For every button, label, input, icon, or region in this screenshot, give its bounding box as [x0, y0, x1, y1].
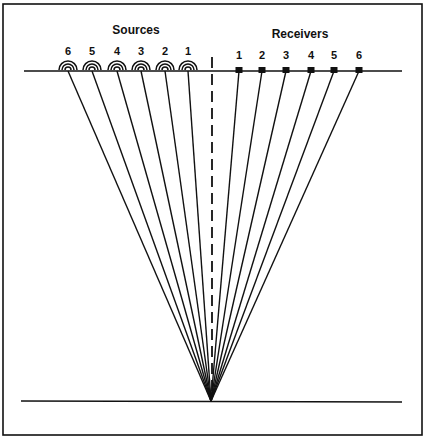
sources-title: Sources	[112, 24, 159, 36]
source-wave-icon	[114, 67, 120, 70]
receiver-geophone-icon	[356, 67, 363, 73]
receiver-label: 5	[331, 50, 337, 61]
receiver-geophone-icon	[308, 67, 315, 73]
receiver-geophone-icon	[283, 67, 290, 73]
receiver-ray	[211, 71, 311, 401]
receiver-ray	[211, 71, 359, 401]
receiver-ray	[211, 71, 334, 401]
diagram-canvas	[0, 0, 425, 438]
source-label: 3	[138, 46, 144, 57]
source-wave-icon	[65, 67, 71, 70]
source-ray	[68, 71, 211, 401]
receiver-geophone-icon	[331, 67, 338, 73]
source-ray	[165, 71, 211, 401]
source-label: 1	[185, 46, 191, 57]
receiver-label: 3	[283, 50, 289, 61]
receiver-geophone-icon	[259, 67, 266, 73]
source-wave-icon	[138, 67, 144, 70]
source-label: 6	[65, 46, 71, 57]
receiver-ray	[211, 71, 262, 401]
source-wave-icon	[185, 67, 191, 70]
receiver-label: 6	[356, 50, 362, 61]
receiver-label: 2	[259, 50, 265, 61]
source-label: 2	[162, 46, 168, 57]
source-wave-icon	[162, 67, 168, 70]
source-ray	[117, 71, 211, 401]
source-label: 4	[114, 46, 120, 57]
receivers-title: Receivers	[272, 28, 329, 40]
receiver-label: 1	[236, 50, 242, 61]
source-ray	[188, 71, 211, 401]
source-wave-icon	[89, 67, 95, 70]
receiver-ray	[211, 71, 286, 401]
common-midpoint-diagram: Sources Receivers 6 5 4 3 2 1 1 2 3 4 5 …	[0, 0, 425, 438]
source-label: 5	[89, 46, 95, 57]
receiver-ray	[211, 71, 239, 401]
receiver-label: 4	[308, 50, 314, 61]
receiver-geophone-icon	[236, 67, 243, 73]
